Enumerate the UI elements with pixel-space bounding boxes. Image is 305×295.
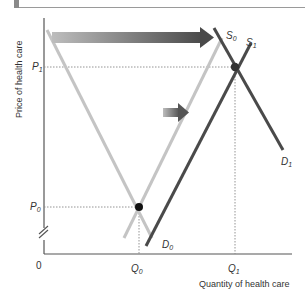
label-d1: D1: [281, 156, 292, 168]
demand-shift-arrow-icon: [52, 27, 214, 48]
axes: [39, 18, 292, 254]
axis-break-mark: [39, 230, 48, 238]
x-axis-title: Quantity of health care: [199, 279, 290, 289]
tick-q0: Q0: [131, 263, 143, 275]
label-d0: D0: [162, 239, 173, 251]
tick-q1: Q1: [228, 263, 240, 275]
y-axis-title: Price of health care: [14, 40, 24, 118]
supply-demand-chart: S0 S1 D0 D1 P1 P0 0 Q0 Q1 Quantity of he…: [0, 0, 305, 295]
label-s0: S0: [226, 30, 237, 42]
tick-p0: P0: [30, 201, 41, 213]
label-s1: S1: [246, 37, 257, 49]
guide-lines: [44, 67, 235, 254]
tick-p1: P1: [32, 61, 43, 73]
equilibrium-point-e1: [231, 63, 239, 71]
origin-label: 0: [36, 260, 42, 271]
equilibrium-point-e0: [135, 203, 143, 211]
supply-curve-s1: [146, 43, 251, 246]
supply-shift-arrow-icon: [163, 103, 189, 122]
